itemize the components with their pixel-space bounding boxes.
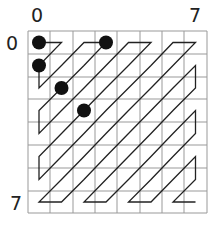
dot: [55, 81, 69, 95]
dot: [32, 36, 46, 50]
zigzag-diagram: [0, 0, 217, 226]
dot: [32, 59, 46, 73]
dot: [99, 36, 113, 50]
dot: [77, 104, 91, 118]
